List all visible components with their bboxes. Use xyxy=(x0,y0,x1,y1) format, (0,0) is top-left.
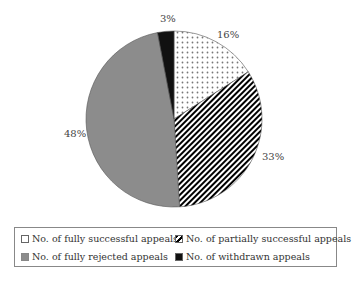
legend-item-fully-successful: No. of fully successful appeals xyxy=(21,233,178,244)
label-3: 3% xyxy=(160,13,176,24)
legend-item-partially-successful: No. of partially successful appeals xyxy=(175,233,351,244)
black-swatch-icon xyxy=(175,253,183,261)
label-33: 33% xyxy=(262,151,284,162)
pie-chart xyxy=(0,0,355,225)
legend-item-fully-rejected: No. of fully rejected appeals xyxy=(21,251,168,262)
stripes-swatch-icon xyxy=(175,235,183,243)
dots-swatch-icon xyxy=(21,235,29,243)
label-48: 48% xyxy=(64,128,86,139)
legend: No. of fully successful appeals No. of p… xyxy=(14,227,337,267)
label-16: 16% xyxy=(217,29,239,40)
legend-item-withdrawn: No. of withdrawn appeals xyxy=(175,251,310,262)
gray-swatch-icon xyxy=(21,253,29,261)
